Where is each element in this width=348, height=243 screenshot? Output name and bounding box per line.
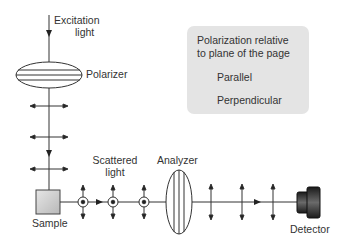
arrowhead-down-icon xyxy=(46,150,52,157)
legend-box: Polarization relative to plane of the pa… xyxy=(187,26,309,114)
legend-item-perpendicular: Perpendicular xyxy=(217,94,282,106)
label-scattered-light: Scattered light xyxy=(92,154,138,178)
label-excitation-line2: light xyxy=(54,26,94,38)
arrowhead-right-icon xyxy=(254,199,261,205)
legend-item-parallel: Parallel xyxy=(217,71,252,83)
label-scattered-line2: light xyxy=(105,166,124,178)
label-detector: Detector xyxy=(290,223,330,235)
label-excitation-line1: Excitation xyxy=(54,14,100,26)
polarizer xyxy=(16,62,82,88)
legend-title-line1: Polarization relative xyxy=(197,34,289,46)
arrowhead-down-icon xyxy=(46,30,52,37)
polarization-both-icon xyxy=(108,185,118,219)
label-polarizer: Polarizer xyxy=(86,68,127,80)
label-excitation-light: Excitation light xyxy=(54,14,100,38)
label-analyzer: Analyzer xyxy=(157,154,198,166)
arrowhead-right-icon xyxy=(96,199,103,205)
label-sample: Sample xyxy=(32,217,68,229)
label-scattered-line1: Scattered xyxy=(93,154,138,166)
analyzer xyxy=(166,170,192,234)
polarization-both-icon xyxy=(78,185,88,219)
sample xyxy=(36,190,60,214)
polarization-both-icon xyxy=(139,185,149,219)
legend-title: Polarization relative to plane of the pa… xyxy=(197,34,290,60)
detector xyxy=(297,187,320,218)
legend-title-line2: to plane of the page xyxy=(197,47,290,59)
